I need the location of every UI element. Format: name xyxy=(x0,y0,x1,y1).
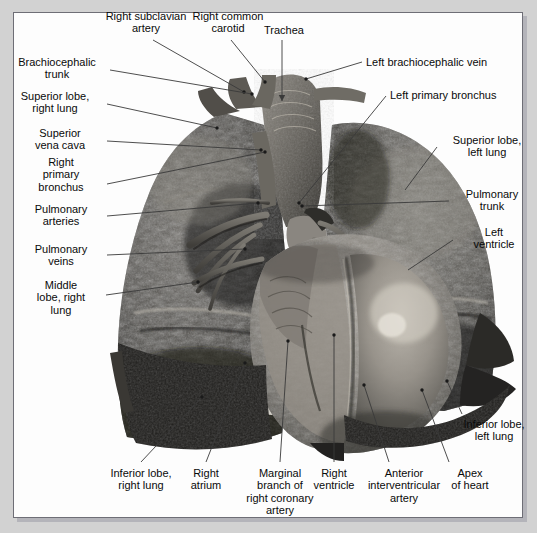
label-left-brachiocephalic-vein: Left brachiocephalic vein xyxy=(366,56,526,68)
figure-screen: Right subclavian arteryRight common caro… xyxy=(0,0,537,533)
label-right-atrium: Right atrium xyxy=(178,467,234,492)
label-brachiocephalic-trunk: Brachiocephalic trunk xyxy=(6,56,108,81)
label-superior-vena-cava: Superior vena cava xyxy=(16,127,104,152)
label-right-ventricle: Right ventricle xyxy=(302,467,366,492)
label-right-primary-bronchus: Right primary bronchus xyxy=(19,156,103,193)
label-apex-of-heart: Apex of heart xyxy=(440,467,500,492)
label-superior-lobe-left-lung: Superior lobe, left lung xyxy=(440,134,534,159)
label-anterior-interventricular-artery: Anterior interventricular artery xyxy=(358,467,450,504)
label-inferior-lobe-left-lung: Inferior lobe, left lung xyxy=(452,418,536,443)
label-pulmonary-arteries: Pulmonary arteries xyxy=(18,203,104,228)
label-trachea: Trachea xyxy=(253,24,315,36)
label-superior-lobe-right-lung: Superior lobe, right lung xyxy=(5,90,105,115)
label-left-primary-bronchus: Left primary bronchus xyxy=(390,89,530,101)
label-pulmonary-trunk: Pulmonary trunk xyxy=(452,188,532,213)
label-left-ventricle: Left ventricle xyxy=(456,226,532,251)
label-pulmonary-veins: Pulmonary veins xyxy=(18,243,104,268)
label-middle-lobe-right-lung: Middle lobe, right lung xyxy=(20,279,102,316)
label-inferior-lobe-right-lung: Inferior lobe, right lung xyxy=(93,467,189,492)
